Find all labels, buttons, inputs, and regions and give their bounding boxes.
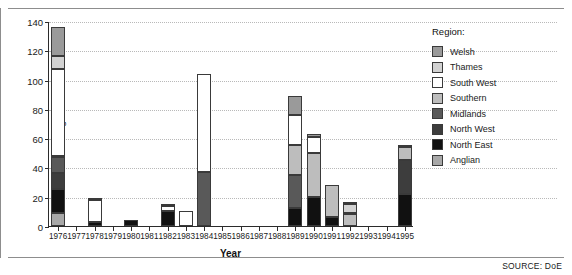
legend-swatch-icon [432, 62, 443, 73]
bar-1978[interactable] [88, 198, 102, 226]
bar-segment-north-east [51, 189, 65, 212]
legend-item-north-west[interactable]: North West [432, 122, 562, 138]
legend-title: Region: [432, 26, 562, 37]
bar-segment-welsh [307, 134, 321, 137]
x-tick-label: 1989 [286, 232, 304, 241]
x-tick-mark [204, 227, 205, 231]
y-tick-mark [45, 139, 49, 140]
x-tick-mark [149, 227, 150, 231]
x-tick-label: 1987 [250, 232, 268, 241]
bar-segment-south-west [288, 115, 302, 146]
legend-item-thames[interactable]: Thames [432, 60, 562, 76]
x-tick-mark [113, 227, 114, 231]
legend-item-label: South West [450, 78, 496, 88]
x-tick-label: 1977 [67, 232, 85, 241]
x-tick-mark [387, 227, 388, 231]
legend-item-label: Southern [450, 93, 487, 103]
legend-item-north-east[interactable]: North East [432, 137, 562, 153]
bar-segment-north-east [124, 220, 138, 226]
legend-item-anglian[interactable]: Anglian [432, 153, 562, 169]
x-tick-label: 1985 [213, 232, 231, 241]
bar-1989[interactable] [288, 96, 302, 226]
legend-item-midlands[interactable]: Midlands [432, 106, 562, 122]
bar-segment-north-west [398, 160, 412, 194]
y-tick-mark [45, 227, 49, 228]
legend-swatch-icon [432, 108, 443, 119]
bar-segment-welsh [161, 204, 175, 206]
bar-segment-north-east [288, 208, 302, 226]
x-tick-mark [131, 227, 132, 231]
x-tick-label: 1990 [305, 232, 323, 241]
bar-1980[interactable] [124, 220, 138, 226]
bar-segment-south-west [197, 74, 211, 172]
y-tick-mark [45, 198, 49, 199]
x-tick-mark [241, 227, 242, 231]
bar-1982[interactable] [161, 204, 175, 226]
legend-swatch-icon [432, 155, 443, 166]
bar-segment-midlands [51, 157, 65, 173]
bar-segment-thames [343, 204, 357, 213]
x-tick-mark [168, 227, 169, 231]
x-tick-mark [368, 227, 369, 231]
x-tick-label: 1983 [177, 232, 195, 241]
bar-segment-south-west [307, 137, 321, 153]
x-tick-mark [95, 227, 96, 231]
legend-swatch-icon [432, 77, 443, 88]
x-tick-label: 1976 [49, 232, 67, 241]
bar-1995[interactable] [398, 145, 412, 226]
gridline [49, 198, 557, 199]
legend-swatch-icon [432, 124, 443, 135]
bar-segment-south-west [161, 206, 175, 212]
x-tick-label: 1980 [122, 232, 140, 241]
gridline [49, 168, 557, 169]
x-tick-label: 1986 [232, 232, 250, 241]
y-tick-mark [45, 22, 49, 23]
bar-1991[interactable] [325, 185, 339, 226]
bar-segment-southern [325, 185, 339, 217]
bar-segment-north-east [398, 194, 412, 226]
bar-segment-welsh [88, 198, 102, 200]
y-tick-mark [45, 51, 49, 52]
legend-swatch-icon [432, 46, 443, 57]
x-tick-label: 1995 [396, 232, 414, 241]
bar-segment-welsh [343, 202, 357, 204]
legend-item-southern[interactable]: Southern [432, 91, 562, 107]
bar-1976[interactable] [51, 27, 65, 226]
bar-segment-southern [398, 147, 412, 160]
legend-item-label: Anglian [450, 155, 480, 165]
bar-segment-anglian [51, 213, 65, 226]
legend-item-welsh[interactable]: Welsh [432, 44, 562, 60]
x-tick-label: 1981 [140, 232, 158, 241]
legend-item-south-west[interactable]: South West [432, 75, 562, 91]
y-tick-mark [45, 110, 49, 111]
x-tick-mark [76, 227, 77, 231]
bar-segment-north-east [325, 217, 339, 226]
figure-left-edge [0, 8, 1, 258]
x-tick-mark [405, 227, 406, 231]
chart-figure: Number of drought orders 020406080100120… [0, 0, 572, 275]
gridlines [49, 22, 413, 226]
bar-segment-midlands [197, 172, 211, 226]
bar-1990[interactable] [307, 134, 321, 226]
bar-segment-south-west [51, 69, 65, 155]
x-tick-label: 1994 [378, 232, 396, 241]
bar-1984[interactable] [197, 74, 211, 226]
legend-item-label: North East [450, 140, 493, 150]
x-tick-mark [314, 227, 315, 231]
legend-swatch-icon [432, 93, 443, 104]
bar-segment-welsh [398, 145, 412, 147]
bar-1992[interactable] [343, 203, 357, 226]
bar-1983[interactable] [179, 211, 193, 226]
bar-segment-southern [307, 153, 321, 197]
bar-segment-north-east [307, 197, 321, 226]
x-tick-mark [186, 227, 187, 231]
x-tick-mark [277, 227, 278, 231]
x-tick-label: 1988 [268, 232, 286, 241]
x-tick-mark [222, 227, 223, 231]
x-tick-mark [295, 227, 296, 231]
bar-segment-north-east [88, 222, 102, 226]
plot-area: 020406080100120140 197619771978197919801… [48, 22, 413, 227]
x-tick-mark [332, 227, 333, 231]
gridline [49, 22, 557, 23]
x-tick-label: 1993 [359, 232, 377, 241]
